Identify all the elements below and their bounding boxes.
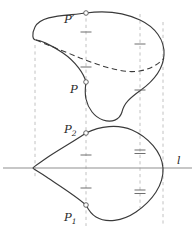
label-p-prime: P′ xyxy=(63,12,75,26)
geometry-figure-container: P′ P P2 P1 l xyxy=(0,0,195,232)
label-p1-subscript: 1 xyxy=(72,217,77,226)
geometry-figure-svg: P′ P P2 P1 l xyxy=(0,0,195,232)
upper-surface-outline xyxy=(33,12,164,121)
point-marker-p-prime[interactable] xyxy=(84,11,89,16)
lower-closed-curve xyxy=(33,126,163,220)
label-p2: P2 xyxy=(63,122,77,138)
label-line-l: l xyxy=(177,154,181,167)
upper-surface-hidden-equator-dashed xyxy=(36,40,164,72)
point-marker-p1[interactable] xyxy=(84,203,89,208)
label-p2-subscript: 2 xyxy=(71,129,77,138)
label-p1-base: P xyxy=(63,210,72,224)
point-marker-p[interactable] xyxy=(84,80,89,85)
label-p: P xyxy=(69,82,78,96)
label-p-prime-base: P xyxy=(63,12,72,26)
point-marker-p2[interactable] xyxy=(84,131,89,136)
tick-marks-group xyxy=(81,32,146,194)
label-p2-base: P xyxy=(63,122,72,136)
label-p1: P1 xyxy=(63,210,77,226)
